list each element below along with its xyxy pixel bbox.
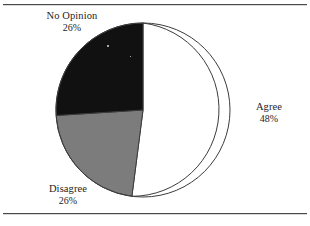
pie-label-agree: Agree 48% bbox=[240, 101, 298, 124]
pie-label-disagree: Disagree 26% bbox=[28, 183, 108, 206]
pie-label-no-opinion: No Opinion 26% bbox=[26, 10, 118, 33]
pie-label-disagree-value: 26% bbox=[28, 195, 108, 206]
pie-label-disagree-text: Disagree bbox=[49, 183, 87, 194]
pie-slice-no-opinion[interactable] bbox=[56, 23, 143, 116]
pie-label-no-opinion-text: No Opinion bbox=[47, 10, 98, 21]
print-speck-icon bbox=[107, 45, 109, 47]
print-speck-secondary-icon bbox=[130, 56, 131, 57]
pie-label-agree-text: Agree bbox=[256, 101, 282, 112]
pie-chart-figure: No Opinion 26% Agree 48% Disagree 26% bbox=[0, 0, 310, 226]
pie-label-no-opinion-value: 26% bbox=[26, 22, 118, 33]
pie-label-agree-value: 48% bbox=[240, 113, 298, 124]
